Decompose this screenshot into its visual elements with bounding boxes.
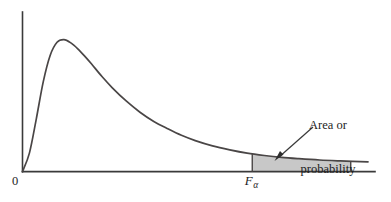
critical-value-subscript: α — [253, 180, 258, 190]
annotation-line-2: probability — [272, 162, 384, 177]
critical-value-label: Fα — [245, 173, 258, 188]
critical-value-symbol: F — [245, 173, 253, 188]
f-distribution-figure: 0 Fα Area or probability — [0, 0, 391, 202]
annotation-line-1: Area or — [272, 118, 384, 133]
origin-label: 0 — [12, 174, 18, 189]
area-probability-annotation: Area or probability — [272, 88, 384, 202]
